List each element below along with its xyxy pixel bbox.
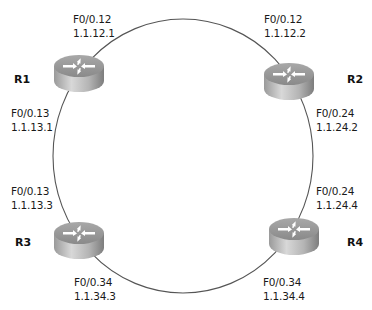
ip-address: 1.1.13.1 — [11, 120, 53, 134]
router-label-r3: R3 — [15, 236, 31, 249]
network-diagram: R1 R2 R3 R4 F0/0.12 1.1.12.1 F0/0.12 1.1… — [0, 0, 372, 310]
ip-address: 1.1.34.3 — [74, 289, 116, 303]
interface-label-r3-r4: F0/0.34 1.1.34.3 — [74, 275, 116, 303]
ip-address: 1.1.12.2 — [264, 26, 306, 40]
router-label-r4: R4 — [347, 236, 363, 249]
ring-link — [0, 0, 372, 310]
interface-label-r4-r3: F0/0.34 1.1.34.4 — [263, 275, 305, 303]
interface-label-r1-r3: F0/0.13 1.1.13.1 — [11, 106, 53, 134]
ip-address: 1.1.12.1 — [73, 26, 115, 40]
interface-name: F0/0.13 — [11, 106, 53, 120]
ip-address: 1.1.13.3 — [11, 198, 53, 212]
interface-name: F0/0.12 — [264, 12, 306, 26]
router-label-r1: R1 — [14, 73, 30, 86]
ip-address: 1.1.24.4 — [316, 198, 358, 212]
interface-name: F0/0.34 — [74, 275, 116, 289]
interface-label-r2-r4: F0/0.24 1.1.24.2 — [316, 106, 358, 134]
router-icon — [263, 62, 315, 102]
interface-name: F0/0.34 — [263, 275, 305, 289]
router-label-r2: R2 — [347, 73, 363, 86]
router-icon — [53, 221, 105, 261]
interface-name: F0/0.13 — [11, 184, 53, 198]
interface-label-r2-r1: F0/0.12 1.1.12.2 — [264, 12, 306, 40]
ip-address: 1.1.24.2 — [316, 120, 358, 134]
interface-label-r1-r2: F0/0.12 1.1.12.1 — [73, 12, 115, 40]
ip-address: 1.1.34.4 — [263, 289, 305, 303]
interface-label-r3-r1: F0/0.13 1.1.13.3 — [11, 184, 53, 212]
router-icon — [268, 217, 320, 257]
interface-name: F0/0.24 — [316, 184, 358, 198]
interface-label-r4-r2: F0/0.24 1.1.24.4 — [316, 184, 358, 212]
interface-name: F0/0.12 — [73, 12, 115, 26]
interface-name: F0/0.24 — [316, 106, 358, 120]
router-icon — [53, 54, 105, 94]
